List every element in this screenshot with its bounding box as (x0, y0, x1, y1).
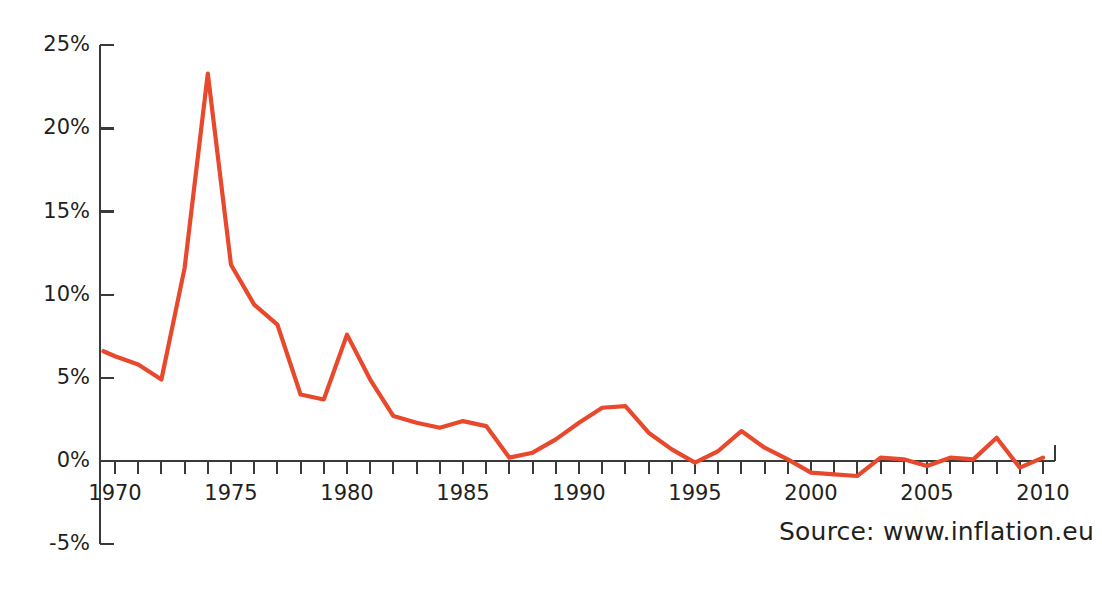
chart-plot-area (0, 0, 1102, 602)
data-series-line (103, 74, 1043, 476)
axis-ticks (100, 128, 1043, 474)
source-attribution: Source: www.inflation.eu (779, 517, 1094, 547)
y-axis-tick-label: 0% (57, 450, 90, 471)
y-axis-tick-label: 25% (43, 34, 90, 55)
inflation-line-chart: 25%20%15%10%5%0%-5% 19701975198019851990… (0, 0, 1102, 602)
axis-lines (100, 45, 1055, 544)
x-axis-tick-label: 2000 (766, 483, 856, 504)
x-axis-tick-label: 1975 (186, 483, 276, 504)
y-axis-tick-label: 15% (43, 201, 90, 222)
x-axis-tick-label: 1970 (70, 483, 160, 504)
y-axis-tick-label: -5% (49, 533, 90, 554)
y-axis-tick-label: 5% (57, 367, 90, 388)
x-axis-tick-label: 1980 (302, 483, 392, 504)
x-axis-tick-label: 1985 (418, 483, 508, 504)
y-axis-tick-label: 20% (43, 117, 90, 138)
x-axis-tick-label: 2010 (998, 483, 1088, 504)
x-axis-tick-label: 2005 (882, 483, 972, 504)
y-axis-tick-label: 10% (43, 284, 90, 305)
x-axis-tick-label: 1995 (650, 483, 740, 504)
x-axis-tick-label: 1990 (534, 483, 624, 504)
